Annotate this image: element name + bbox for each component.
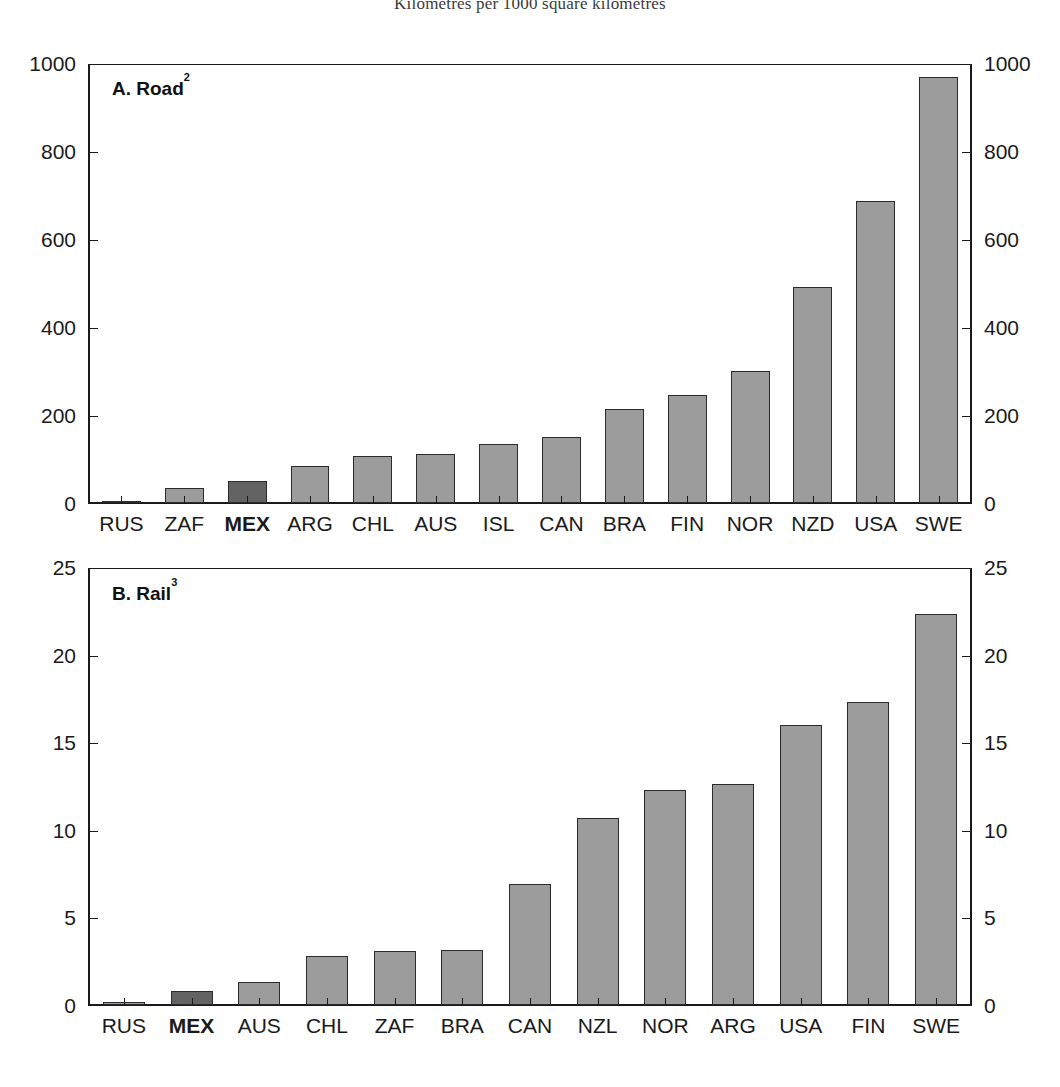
- bar-bra[interactable]: [441, 950, 483, 1005]
- y-tick-label: 0: [984, 995, 1058, 1016]
- y-tick-label: 5: [984, 907, 1058, 928]
- bar-cell[interactable]: [699, 568, 767, 1005]
- bar-zaf[interactable]: [374, 951, 416, 1005]
- bar-nor[interactable]: [644, 790, 686, 1005]
- x-axis-label-rus: RUS: [90, 1014, 158, 1038]
- x-tick: [665, 998, 666, 1005]
- bar-cell[interactable]: [767, 568, 835, 1005]
- y-tick-label: 25: [984, 557, 1058, 578]
- y-tick-label: 15: [984, 732, 1058, 753]
- y-tick-label: 15: [2, 732, 76, 753]
- bar-can[interactable]: [509, 884, 551, 1005]
- x-tick: [801, 998, 802, 1005]
- bar-cell[interactable]: [632, 568, 700, 1005]
- x-tick: [936, 998, 937, 1005]
- x-axis-label-zaf: ZAF: [361, 1014, 429, 1038]
- x-tick: [868, 998, 869, 1005]
- bar-cell[interactable]: [428, 568, 496, 1005]
- y-tick-label: 10: [2, 820, 76, 841]
- x-tick: [733, 998, 734, 1005]
- x-tick: [530, 998, 531, 1005]
- x-axis-label-can: CAN: [496, 1014, 564, 1038]
- bar-cell[interactable]: [293, 568, 361, 1005]
- x-tick: [259, 998, 260, 1005]
- panel-rail: B. Rail3 00551010151520202525 RUSMEXAUSC…: [0, 0, 1060, 1087]
- x-axis-label-chl: CHL: [293, 1014, 361, 1038]
- bar-series-rail: [90, 568, 970, 1005]
- x-tick: [395, 998, 396, 1005]
- x-axis-labels-rail: RUSMEXAUSCHLZAFBRACANNZLNORARGUSAFINSWE: [90, 1014, 970, 1038]
- x-tick: [327, 998, 328, 1005]
- bar-usa[interactable]: [780, 725, 822, 1005]
- x-axis-label-usa: USA: [767, 1014, 835, 1038]
- x-axis-label-arg: ARG: [699, 1014, 767, 1038]
- y-tick-label: 20: [984, 645, 1058, 666]
- bar-fin[interactable]: [847, 702, 889, 1005]
- bar-cell[interactable]: [361, 568, 429, 1005]
- x-axis-label-mex: MEX: [158, 1014, 226, 1038]
- x-axis-label-nzl: NZL: [564, 1014, 632, 1038]
- bar-cell[interactable]: [496, 568, 564, 1005]
- bar-arg[interactable]: [712, 784, 754, 1005]
- bar-cell[interactable]: [90, 568, 158, 1005]
- y-tick-label: 10: [984, 820, 1058, 841]
- bar-cell[interactable]: [902, 568, 970, 1005]
- bar-cell[interactable]: [835, 568, 903, 1005]
- bar-cell[interactable]: [158, 568, 226, 1005]
- x-tick: [124, 998, 125, 1005]
- y-tick-label: 25: [2, 557, 76, 578]
- x-axis-label-bra: BRA: [428, 1014, 496, 1038]
- x-axis-label-fin: FIN: [835, 1014, 903, 1038]
- x-axis-label-nor: NOR: [632, 1014, 700, 1038]
- x-axis-label-swe: SWE: [902, 1014, 970, 1038]
- y-tick-label: 20: [2, 645, 76, 666]
- x-tick: [462, 998, 463, 1005]
- x-tick: [598, 998, 599, 1005]
- x-axis-label-aus: AUS: [225, 1014, 293, 1038]
- bar-cell[interactable]: [225, 568, 293, 1005]
- bar-cell[interactable]: [564, 568, 632, 1005]
- bar-nzl[interactable]: [577, 818, 619, 1005]
- x-tick: [192, 998, 193, 1005]
- y-tick-label: 5: [2, 907, 76, 928]
- y-tick-label: 0: [2, 995, 76, 1016]
- bar-swe[interactable]: [915, 614, 957, 1005]
